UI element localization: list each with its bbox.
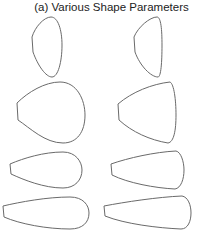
shape-r3c1: [10, 152, 82, 188]
shape-r1c1: [32, 17, 62, 77]
shape-r1c2: [134, 17, 162, 77]
shape-r4c2: [104, 196, 191, 229]
shape-r2c2: [118, 82, 176, 143]
shape-r4c1: [3, 197, 89, 229]
shape-r2c1: [17, 82, 85, 143]
shape-grid: [0, 0, 215, 233]
shape-r3c2: [111, 151, 184, 189]
